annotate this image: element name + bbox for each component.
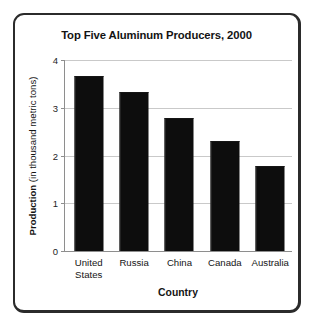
x-axis-title: Country: [64, 287, 292, 298]
y-tick-mark: [61, 156, 65, 157]
figure-frame: Top Five Aluminum Producers, 2000 Produc…: [13, 13, 301, 313]
bar-slot: Australia: [248, 60, 293, 251]
bar: [256, 166, 285, 251]
bar-slot: Russia: [111, 60, 156, 251]
bar-slot: Canada: [202, 60, 247, 251]
y-tick-label: 1: [53, 198, 58, 209]
bar: [120, 92, 149, 251]
y-tick-mark: [61, 60, 65, 61]
bar: [165, 118, 194, 251]
x-category-label: United States: [75, 257, 103, 280]
chart-title: Top Five Aluminum Producers, 2000: [15, 29, 298, 41]
y-tick-label: 0: [53, 246, 58, 257]
y-tick-mark: [61, 108, 65, 109]
bar-slot: United States: [66, 60, 111, 251]
bar: [210, 141, 239, 251]
x-category-label: Russia: [119, 257, 148, 269]
bar-slot: China: [157, 60, 202, 251]
bar: [74, 76, 103, 251]
y-tick-label: 4: [53, 55, 58, 66]
y-axis-title: Production (in thousand metric tons): [27, 60, 41, 252]
x-category-label: Canada: [208, 257, 242, 269]
plot-area: 43210 United StatesRussiaChinaCanadaAust…: [64, 60, 292, 252]
y-tick-label: 3: [53, 102, 58, 113]
bars-layer: United StatesRussiaChinaCanadaAustralia: [66, 60, 292, 251]
y-tick-label: 2: [53, 150, 58, 161]
y-tick-mark: [61, 203, 65, 204]
x-category-label: Australia: [252, 257, 289, 269]
x-category-label: China: [167, 257, 192, 269]
y-axis-title-rest: (in thousand metric tons): [27, 77, 38, 185]
y-tick-mark: [61, 251, 65, 252]
y-axis-title-strong: Production: [27, 185, 38, 236]
